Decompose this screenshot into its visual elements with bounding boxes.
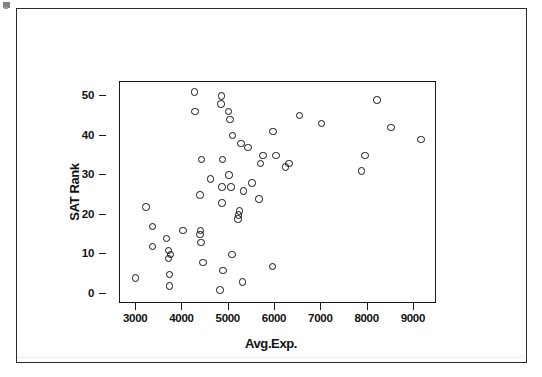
y-axis-tick: [99, 174, 106, 175]
x-axis-tick: [367, 303, 368, 310]
data-point: [239, 278, 247, 286]
data-point: [226, 116, 234, 124]
y-axis-tick: [99, 214, 106, 215]
data-point: [259, 152, 267, 160]
data-point: [218, 183, 226, 191]
data-point: [179, 227, 187, 235]
data-point: [373, 96, 381, 104]
x-axis-tick: [181, 303, 182, 310]
data-point: [216, 286, 224, 294]
x-axis-tick-label: 5000: [216, 312, 240, 324]
x-axis-tick-label: 3000: [123, 312, 147, 324]
data-point: [167, 251, 175, 259]
y-axis-tick: [99, 253, 106, 254]
data-point: [244, 144, 252, 152]
data-point: [149, 223, 157, 231]
data-point: [142, 203, 150, 211]
scan-artifact-streak: [17, 352, 525, 359]
data-point: [240, 187, 248, 195]
data-point: [207, 175, 215, 183]
data-point: [269, 128, 277, 136]
y-axis-tick: [99, 95, 106, 96]
data-point: [218, 92, 226, 100]
data-point: [166, 282, 174, 290]
scatter-plot-area: [120, 82, 435, 302]
data-point: [417, 136, 425, 144]
data-point: [225, 171, 233, 179]
data-point: [257, 160, 265, 168]
y-axis-tick-label: 20: [82, 208, 94, 220]
x-axis-title: Avg.Exp.: [0, 336, 542, 351]
data-point: [199, 259, 207, 267]
data-point: [285, 160, 293, 168]
data-point: [272, 152, 280, 160]
data-point: [191, 88, 199, 96]
data-point: [237, 140, 245, 148]
x-axis-tick: [228, 303, 229, 310]
data-point: [358, 167, 366, 175]
y-axis-tick-label: 10: [82, 247, 94, 259]
data-point: [198, 156, 206, 164]
data-point: [132, 274, 140, 282]
x-axis-tick: [135, 303, 136, 310]
data-point: [196, 191, 204, 199]
data-point: [229, 132, 237, 140]
data-point: [217, 100, 225, 108]
data-point: [269, 263, 277, 271]
data-point: [163, 235, 171, 243]
data-point: [255, 195, 263, 203]
data-point: [228, 251, 236, 259]
data-point: [236, 207, 244, 215]
data-point: [219, 267, 227, 275]
y-axis-tick-label: 30: [82, 168, 94, 180]
data-point: [197, 239, 205, 247]
x-axis-tick-label: 9000: [401, 312, 425, 324]
x-axis-tick-label: 8000: [354, 312, 378, 324]
data-point: [219, 156, 227, 164]
y-axis-tick-label: 50: [82, 89, 94, 101]
x-axis-tick-label: 7000: [308, 312, 332, 324]
figure-root: 01020304050 3000400050006000700080009000…: [0, 0, 542, 377]
data-point: [248, 179, 256, 187]
data-point: [225, 108, 233, 116]
data-point: [318, 120, 326, 128]
y-axis-tick-label: 0: [88, 287, 94, 299]
data-point: [166, 271, 174, 279]
data-point: [387, 124, 395, 132]
data-point: [191, 108, 199, 116]
data-point: [149, 243, 157, 251]
data-point: [361, 152, 369, 160]
x-axis-tick-label: 6000: [262, 312, 286, 324]
data-point: [218, 199, 226, 207]
x-axis-tick: [413, 303, 414, 310]
y-axis-title: SAT Rank: [67, 163, 82, 220]
x-axis-tick-label: 4000: [169, 312, 193, 324]
y-axis-tick: [99, 293, 106, 294]
y-axis-tick-label: 40: [82, 129, 94, 141]
y-axis-tick: [99, 135, 106, 136]
data-point: [227, 183, 235, 191]
x-axis-tick: [274, 303, 275, 310]
scan-artifact-speck: [3, 2, 10, 8]
x-axis-tick: [320, 303, 321, 310]
data-point: [296, 112, 304, 120]
plot-panel: [119, 81, 436, 303]
